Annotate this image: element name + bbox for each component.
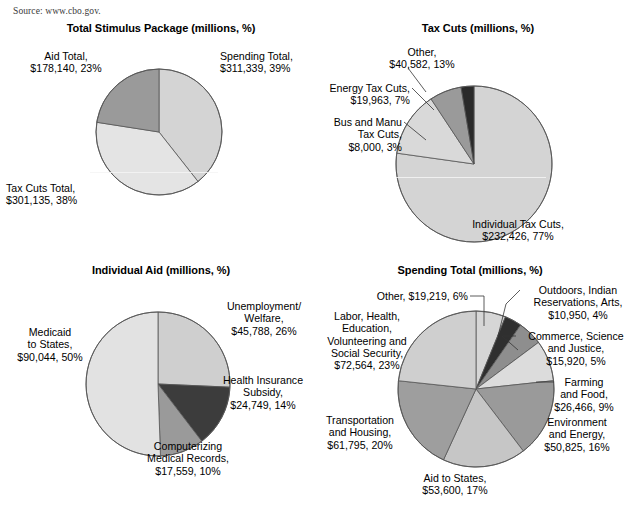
pie-slice-label: Computerizing Medical Records, $17,559, …	[126, 440, 250, 477]
pie-slice-label: Farming and Food, $26,466, 9%	[538, 376, 630, 413]
scan-artifact-line	[90, 172, 218, 173]
pie-slice-label: Outdoors, Indian Reservations, Arts, $10…	[522, 284, 634, 321]
pie-slice-label: Spending Total, $311,339, 39%	[220, 50, 316, 75]
pie-slice-label: Other, $40,582, 13%	[370, 46, 474, 71]
chart-panel-total-stimulus: Total Stimulus Package (millions, %) Spe…	[6, 22, 316, 222]
chart-panel-spending-total: Spending Total (millions, %) Other, $19,…	[306, 264, 634, 504]
leader-line	[506, 290, 520, 304]
leader-line	[408, 68, 426, 92]
pie-slice-label: Bus and Manu Tax Cuts, $8,000, 3%	[322, 116, 402, 153]
pie-slice-label: Medicaid to States, $90,044, 50%	[6, 326, 94, 363]
pie-slice-label: Individual Tax Cuts, $232,426, 77%	[448, 218, 588, 243]
pie-slice	[97, 69, 159, 132]
chart-panel-tax-cuts: Tax Cuts (millions, %) Individual Tax Cu…	[322, 22, 634, 254]
pie-slice-label: Labor, Health, Education, Volunteering a…	[306, 310, 428, 371]
pie-slice-label: Environment and Energy, $50,825, 16%	[526, 416, 628, 453]
pie-slice-label: Aid Total, $178,140, 23%	[18, 50, 114, 75]
pie-slice-label: Energy Tax Cuts, $19,963, 7%	[322, 82, 410, 107]
pie-slice-label: Commerce, Science and Justice, $15,920, …	[518, 330, 634, 367]
pie-slice-label: Unemployment/ Welfare, $45,788, 26%	[212, 300, 316, 337]
pie-slice-label: Other, $19,219, 6%	[318, 290, 468, 302]
pie-slice-label: Aid to States, $53,600, 17%	[400, 472, 510, 497]
scan-artifact-line	[396, 177, 546, 178]
source-attribution: Source: www.cbo.gov.	[13, 6, 101, 16]
pie-slice-label: Tax Cuts Total, $301,135, 38%	[6, 182, 102, 207]
pie-slice-label: Transportation and Housing, $61,795, 20%	[306, 414, 414, 451]
pie-slice	[86, 312, 160, 456]
chart-panel-individual-aid: Individual Aid (millions, %) Unemploymen…	[6, 264, 316, 502]
pie-slice-label: Health Insurance Subsidy, $24,749, 14%	[210, 374, 316, 411]
